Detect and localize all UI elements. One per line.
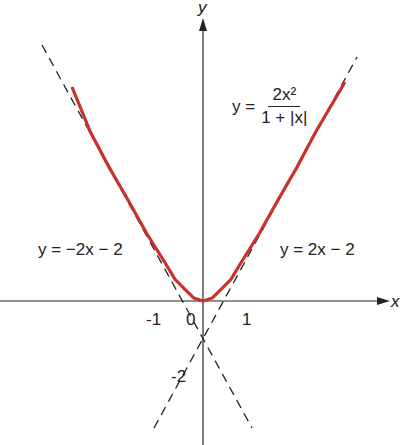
- x-axis-label: x: [391, 292, 400, 312]
- tick-label-neg1: -1: [146, 310, 161, 330]
- y-axis-arrow-icon: [199, 18, 207, 31]
- y-axis-label: y: [198, 0, 207, 18]
- tick-label-pos1: 1: [242, 310, 251, 330]
- asymptote-left-label: y = −2x − 2: [38, 240, 123, 260]
- tick-label-neg2: -2: [171, 367, 186, 387]
- curve-equation-label: y = 2x² 1 + |x|: [232, 85, 307, 128]
- tick-label-origin: 0: [186, 310, 195, 330]
- x-axis-arrow-icon: [377, 297, 390, 305]
- asymptote-right-label: y = 2x − 2: [280, 240, 355, 260]
- curve-equation-lhs: y =: [232, 97, 255, 117]
- curve-equation-denominator: 1 + |x|: [261, 107, 307, 128]
- curve-equation-numerator: 2x²: [268, 85, 300, 107]
